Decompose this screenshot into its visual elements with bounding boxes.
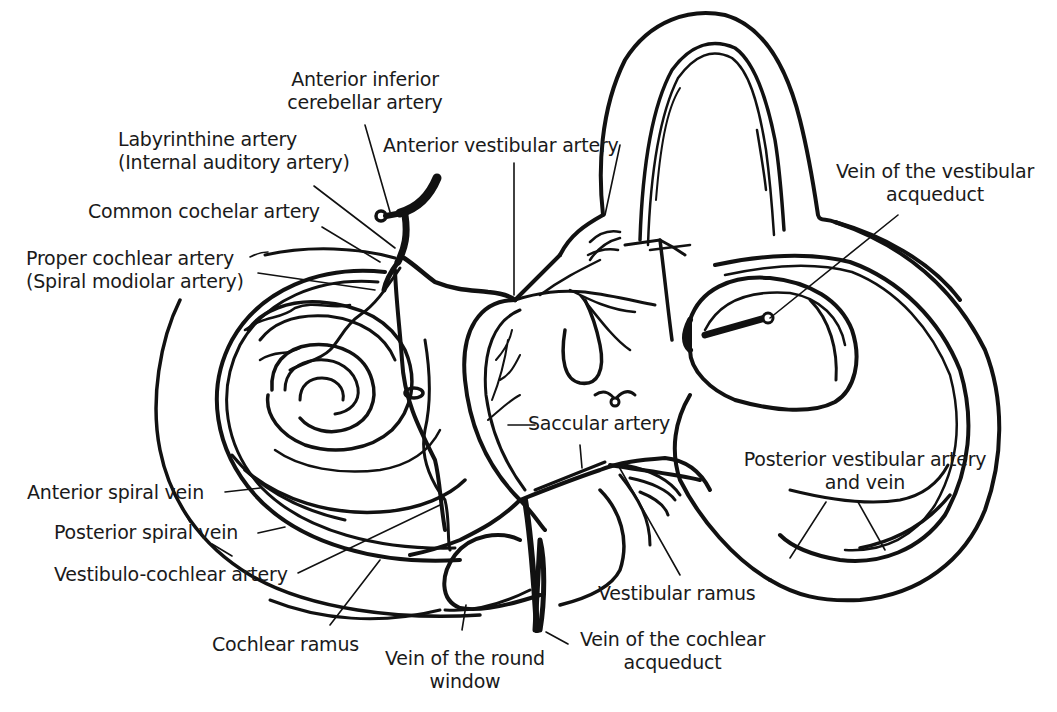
label-line: Proper cochlear artery [26, 247, 244, 270]
cochlea [156, 249, 480, 616]
label-line: cerebellar artery [280, 91, 450, 114]
label-line: Anterior inferior [280, 68, 450, 91]
label-line: acqueduct [565, 651, 780, 674]
diagram-artwork [0, 0, 1057, 712]
label-cochlear-ramus: Cochlear ramus [212, 633, 359, 656]
label-line: window [370, 670, 560, 693]
label-labyrinthine-artery: Labyrinthine artery (Internal auditory a… [118, 128, 350, 174]
label-posterior-spiral-vein: Posterior spiral vein [54, 521, 238, 544]
label-line: Vein of the round [370, 647, 560, 670]
label-line: Vein of the cochlear [565, 628, 780, 651]
posterior-semicircular-canal [675, 222, 999, 600]
label-vein-of-round-window: Vein of the round window [370, 647, 560, 693]
label-line: Posterior vestibular artery [730, 448, 1000, 471]
label-vein-of-vestibular-aqueduct: Vein of the vestibular acqueduct [820, 160, 1050, 206]
label-saccular-artery: Saccular artery [528, 412, 670, 435]
label-vestibulo-cochlear-artery: Vestibulo-cochlear artery [54, 563, 288, 586]
label-proper-cochlear-artery: Proper cochlear artery (Spiral modiolar … [26, 247, 244, 293]
label-anterior-spiral-vein: Anterior spiral vein [27, 481, 204, 504]
label-line: (Internal auditory artery) [118, 151, 350, 174]
label-line: Vein of the vestibular [820, 160, 1050, 183]
label-vein-of-cochlear-aqueduct: Vein of the cochlear acqueduct [565, 628, 780, 674]
label-line: (Spiral modiolar artery) [26, 270, 244, 293]
label-common-cochlear-artery: Common cochelar artery [88, 200, 320, 223]
label-posterior-vestibular-artery-and-vein: Posterior vestibular artery and vein [730, 448, 1000, 494]
label-line: Labyrinthine artery [118, 128, 350, 151]
label-anterior-inferior-cerebellar-artery: Anterior inferior cerebellar artery [280, 68, 450, 114]
label-vestibular-ramus: Vestibular ramus [598, 582, 755, 605]
inner-ear-blood-supply-diagram: Anterior inferior cerebellar artery Laby… [0, 0, 1057, 712]
label-line: and vein [730, 471, 1000, 494]
label-anterior-vestibular-artery: Anterior vestibular artery [383, 134, 619, 157]
label-line: acqueduct [820, 183, 1050, 206]
